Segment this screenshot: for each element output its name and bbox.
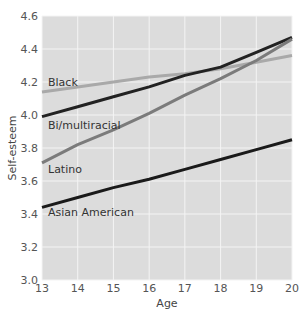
series-label: Bi/multiracial [48, 119, 121, 132]
series-label: Black [48, 76, 78, 89]
x-axis-ticks: 1314151617181920 [35, 282, 299, 295]
y-axis-label: Self-esteem [6, 115, 19, 180]
x-tick-label: 14 [71, 282, 85, 295]
y-axis-ticks: 3.03.23.43.63.84.04.24.44.6 [21, 10, 39, 287]
y-tick-label: 3.6 [21, 175, 39, 188]
x-tick-label: 15 [106, 282, 120, 295]
y-tick-label: 4.4 [21, 43, 39, 56]
y-tick-label: 4.2 [21, 76, 39, 89]
y-tick-label: 3.8 [21, 142, 39, 155]
line-chart: BlackBi/multiracialLatinoAsian American … [0, 0, 307, 314]
y-tick-label: 4.0 [21, 109, 39, 122]
x-axis-label: Age [156, 297, 178, 310]
x-tick-label: 16 [142, 282, 156, 295]
y-tick-label: 3.2 [21, 241, 39, 254]
x-tick-label: 18 [214, 282, 228, 295]
y-tick-label: 4.6 [21, 10, 39, 23]
y-tick-label: 3.4 [21, 208, 39, 221]
x-tick-label: 19 [249, 282, 263, 295]
series-label: Asian American [48, 206, 134, 219]
x-tick-label: 13 [35, 282, 49, 295]
x-tick-label: 17 [178, 282, 192, 295]
x-tick-label: 20 [285, 282, 299, 295]
series-label: Latino [48, 163, 82, 176]
